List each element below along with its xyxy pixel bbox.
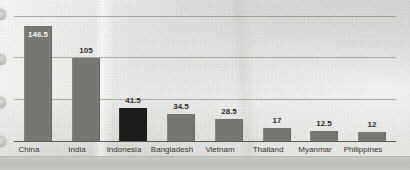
bar-china[interactable]: 146.5: [24, 26, 52, 141]
x-tick-label-thailand: Thailand: [245, 144, 291, 156]
bar-value-label: 12.5: [316, 119, 332, 129]
bar-column-myanmar[interactable]: 12.5: [310, 119, 338, 141]
bar-value-label: 34.5: [173, 102, 189, 112]
binder-hole-punch-1: [0, 9, 6, 20]
x-tick-label-china: China: [6, 144, 52, 156]
bar-value-label: 146.5: [24, 30, 52, 40]
bar-chart-plot-area: 146.510541.534.528.51712.512 ChinaIndiaI…: [14, 0, 396, 170]
bar-value-label: 41.5: [125, 96, 141, 106]
binder-hole-punch-3: [0, 97, 6, 108]
bar-value-label: 12: [368, 120, 377, 130]
bar-value-label: 17: [273, 116, 282, 126]
chart-page: 146.510541.534.528.51712.512 ChinaIndiaI…: [0, 0, 410, 170]
bar-india[interactable]: [72, 58, 100, 141]
bar-column-china[interactable]: 146.5: [24, 26, 52, 141]
x-tick-label-indonesia: Indonesia: [101, 144, 147, 156]
page-edge-band: [0, 156, 410, 170]
bar-myanmar[interactable]: [310, 131, 338, 141]
x-tick-label-bangladesh: Bangladesh: [149, 144, 195, 156]
bar-column-india[interactable]: 105: [72, 46, 100, 141]
x-tick-label-myanmar: Myanmar: [292, 144, 338, 156]
bar-column-bangladesh[interactable]: 34.5: [167, 102, 195, 141]
bar-column-philippines[interactable]: 12: [358, 120, 386, 141]
bar-bangladesh[interactable]: [167, 114, 195, 141]
bar-value-label: 105: [79, 46, 92, 56]
x-tick-label-philippines: Philippines: [340, 144, 386, 156]
x-tick-label-india: India: [54, 144, 100, 156]
bar-series: 146.510541.534.528.51712.512: [14, 0, 396, 142]
bar-thailand[interactable]: [263, 128, 291, 141]
x-axis-line: [14, 141, 396, 142]
bar-column-vietnam[interactable]: 28.5: [215, 107, 243, 141]
bar-value-label: 28.5: [221, 107, 237, 117]
bar-column-indonesia[interactable]: 41.5: [119, 96, 147, 141]
x-tick-label-vietnam: Vietnam: [197, 144, 243, 156]
bar-indonesia[interactable]: [119, 108, 147, 141]
bar-vietnam[interactable]: [215, 119, 243, 141]
binder-hole-punch-2: [0, 54, 6, 65]
bar-column-thailand[interactable]: 17: [263, 116, 291, 141]
bar-philippines[interactable]: [358, 132, 386, 141]
